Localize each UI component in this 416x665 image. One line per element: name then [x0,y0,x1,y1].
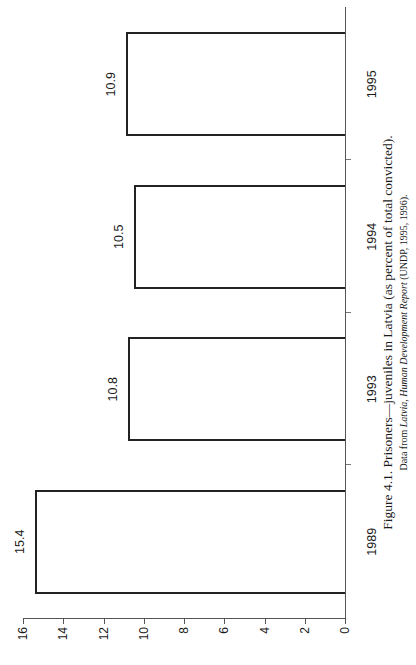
source-suffix: (UNDP, 1995, 1996). [398,194,409,282]
figure-caption-title: Figure 4.1. Prisoners—juveniles in Latvi… [380,0,396,665]
x-axis-tick [346,465,351,466]
bar-1993 [128,337,345,441]
y-axis-tick-label: 2 [299,627,311,657]
y-axis-tick-label: 4 [259,627,271,657]
source-prefix: Data from [398,427,409,470]
category-axis-line [345,7,346,619]
y-axis-tick [104,619,105,624]
y-axis-tick-label: 6 [218,627,230,657]
y-axis-tick [224,619,225,624]
y-axis-tick [265,619,266,624]
y-axis-tick-label: 14 [57,627,69,657]
y-axis-tick-label: 12 [98,627,110,657]
category-label: 1994 [365,207,379,267]
rotated-chart-figure: 0246810121416 15.4198910.8199310.5199410… [0,0,416,665]
y-axis-tick [184,619,185,624]
y-axis-tick [63,619,64,624]
bar-value-label: 10.8 [106,359,120,419]
category-label: 1995 [365,54,379,114]
y-axis-tick-label: 8 [178,627,190,657]
source-title: Latvia, Human Development Report [398,282,409,427]
category-label: 1989 [365,512,379,572]
x-axis-tick [346,160,351,161]
bar-value-label: 15.4 [13,512,27,572]
figure-caption-source: Data from Latvia, Human Development Repo… [398,0,409,665]
bar-1994 [134,185,345,289]
y-axis-tick [305,619,306,624]
y-axis-tick [23,619,24,624]
y-axis-tick-label: 0 [339,627,351,657]
bar-value-label: 10.5 [112,207,126,267]
y-axis-tick-label: 10 [138,627,150,657]
y-axis-tick-label: 16 [17,627,29,657]
x-axis-tick [346,312,351,313]
bar-1989 [35,490,345,594]
y-axis-tick [345,619,346,624]
y-axis-tick [144,619,145,624]
bar-1995 [126,32,345,136]
category-label: 1993 [365,359,379,419]
bar-value-label: 10.9 [104,54,118,114]
